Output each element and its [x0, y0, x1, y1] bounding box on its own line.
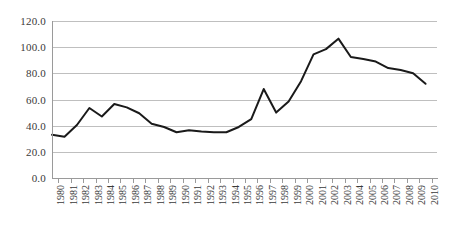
x-axis-tick-mark — [332, 179, 333, 183]
x-axis-tick-label-text: 1998 — [280, 185, 290, 205]
y-axis-tick-label: 100.0 — [0, 42, 46, 53]
y-axis-tick-label: 0.0 — [0, 173, 46, 184]
plot-area — [52, 21, 437, 178]
x-axis-tick-mark — [432, 179, 433, 183]
x-axis-tick-label: 1994 — [228, 185, 238, 205]
x-axis-tick-label-text: 1991 — [193, 185, 203, 205]
x-axis-tick-mark — [282, 179, 283, 183]
x-axis-tick-label: 2004 — [352, 185, 362, 205]
x-axis-tick-label: 1987 — [140, 185, 150, 205]
x-axis-tick-mark — [295, 179, 296, 183]
x-axis-tick-label-text: 1987 — [143, 185, 153, 205]
x-axis-tick-label: 1984 — [103, 185, 113, 205]
x-axis-tick-label: 1988 — [153, 185, 163, 205]
x-axis-tick-label-text: 1993 — [218, 185, 228, 205]
x-axis-tick-label: 1982 — [78, 185, 88, 205]
x-axis-tick-mark — [133, 179, 134, 183]
x-axis-tick-label-text: 2009 — [417, 185, 427, 205]
x-axis-tick-label: 2002 — [327, 185, 337, 205]
x-axis-tick-label-text: 1985 — [118, 185, 128, 205]
x-axis-tick-label: 1995 — [240, 185, 250, 205]
x-axis-tick-label: 1985 — [115, 185, 125, 205]
x-axis-tick-label-text: 2002 — [330, 185, 340, 205]
x-axis-tick-label: 2005 — [365, 185, 375, 205]
x-axis-tick-label: 1981 — [66, 185, 76, 205]
x-axis-tick-mark — [394, 179, 395, 183]
x-axis-tick-label: 2006 — [377, 185, 387, 205]
x-axis-tick-label: 1991 — [190, 185, 200, 205]
x-axis-tick-label-text: 1980 — [56, 185, 66, 205]
x-axis-tick-mark — [83, 179, 84, 183]
x-axis-tick-label: 1986 — [128, 185, 138, 205]
line-chart: 120.0100.080.060.040.020.00.0 1980198119… — [0, 0, 459, 235]
y-axis-line — [52, 21, 53, 178]
x-axis-tick-label: 1998 — [277, 185, 287, 205]
x-axis-tick-label: 1980 — [53, 185, 63, 205]
x-axis-tick-mark — [208, 179, 209, 183]
x-axis-tick-label: 1999 — [290, 185, 300, 205]
x-axis-tick-label: 2001 — [315, 185, 325, 205]
x-axis-tick-label: 1992 — [203, 185, 213, 205]
x-axis-tick-label: 2009 — [414, 185, 424, 205]
x-axis-tick-mark — [270, 179, 271, 183]
x-axis-tick-label-text: 1996 — [255, 185, 265, 205]
x-axis-tick-mark — [108, 179, 109, 183]
x-axis-tick-mark — [370, 179, 371, 183]
x-axis-tick-mark — [220, 179, 221, 183]
x-axis-tick-label: 1996 — [252, 185, 262, 205]
x-axis-tick-label: 2008 — [402, 185, 412, 205]
x-axis-tick-mark — [96, 179, 97, 183]
x-axis-tick-mark — [357, 179, 358, 183]
x-axis-tick-label: 2007 — [389, 185, 399, 205]
x-axis-tick-label-text: 1982 — [81, 185, 91, 205]
x-axis-tick-labels: 1980198119821983198419851986198719881989… — [52, 185, 438, 235]
x-axis-tick-mark — [183, 179, 184, 183]
x-axis-tick-mark — [382, 179, 383, 183]
x-axis-tick-mark — [145, 179, 146, 183]
series-polyline — [52, 39, 426, 137]
x-axis-tick-mark — [407, 179, 408, 183]
data-series-line — [52, 21, 437, 178]
x-axis-tick-mark — [58, 179, 59, 183]
x-axis-tick-mark — [257, 179, 258, 183]
x-axis-tick-label: 2003 — [340, 185, 350, 205]
x-axis-tick-label-text: 2004 — [355, 185, 365, 205]
x-axis-tick-mark — [158, 179, 159, 183]
x-axis-tick-mark — [71, 179, 72, 183]
y-axis-tick-label: 80.0 — [0, 68, 46, 79]
x-axis-tick-label: 2010 — [427, 185, 437, 205]
x-axis-tick-label: 1997 — [265, 185, 275, 205]
x-axis-tick-label-text: 2000 — [305, 185, 315, 205]
x-axis-tick-mark — [233, 179, 234, 183]
x-axis-tick-label: 2000 — [302, 185, 312, 205]
x-axis-tick-label-text: 2007 — [392, 185, 402, 205]
x-axis-tick-marks — [52, 179, 438, 183]
x-axis-tick-label: 1983 — [91, 185, 101, 205]
x-axis-tick-mark — [320, 179, 321, 183]
y-axis-tick-label: 120.0 — [0, 16, 46, 27]
x-axis-tick-mark — [307, 179, 308, 183]
x-axis-tick-label-text: 1989 — [168, 185, 178, 205]
x-axis-tick-mark — [120, 179, 121, 183]
x-axis-tick-mark — [419, 179, 420, 183]
y-axis-tick-labels: 120.0100.080.060.040.020.00.0 — [0, 0, 46, 235]
y-axis-tick-label: 20.0 — [0, 147, 46, 158]
x-axis-tick-mark — [245, 179, 246, 183]
y-axis-tick-label: 60.0 — [0, 95, 46, 106]
x-axis-tick-mark — [345, 179, 346, 183]
x-axis-tick-label-text: 2010 — [430, 185, 440, 205]
x-axis-tick-label: 1993 — [215, 185, 225, 205]
x-axis-tick-label: 1990 — [178, 185, 188, 205]
x-axis-tick-label: 1989 — [165, 185, 175, 205]
x-axis-tick-mark — [195, 179, 196, 183]
x-axis-tick-mark — [170, 179, 171, 183]
y-axis-tick-label: 40.0 — [0, 121, 46, 132]
